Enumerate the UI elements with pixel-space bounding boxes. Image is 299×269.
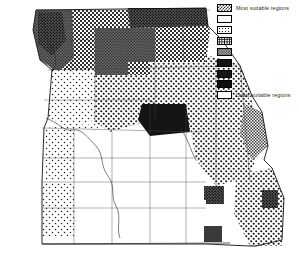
legend-swatch-solid-black-2 xyxy=(217,80,232,88)
legend-swatch-solid-black-1 xyxy=(217,70,232,78)
legend-swatch-dense-stipple xyxy=(217,59,232,67)
legend-item-8[interactable] xyxy=(217,78,232,89)
legend: Most suitable regions Least suitable reg… xyxy=(217,1,299,99)
legend-item-6[interactable] xyxy=(217,57,232,68)
legend-item-1[interactable]: Most suitable regions xyxy=(217,2,289,13)
legend-swatch-sparse-dots xyxy=(217,26,232,34)
legend-swatch-cross-hatch xyxy=(217,37,232,45)
region-lower-blank xyxy=(112,200,206,244)
legend-item-3[interactable] xyxy=(217,24,232,35)
legend-item-4[interactable] xyxy=(217,35,232,46)
legend-label-most-suitable: Most suitable regions xyxy=(236,4,289,12)
legend-swatch-fine-checker xyxy=(217,48,232,56)
figure-root: Most suitable regions Least suitable reg… xyxy=(0,0,299,269)
legend-swatch-least-suitable xyxy=(217,91,232,99)
legend-item-9[interactable]: Least suitable regions xyxy=(217,89,291,100)
legend-swatch-coarse-checker-dark xyxy=(217,4,232,12)
region-west-sparse-dots xyxy=(48,70,95,128)
legend-item-5[interactable] xyxy=(217,46,232,57)
region-bottom-black-square xyxy=(204,226,222,242)
region-bootheel-dark xyxy=(204,186,224,204)
legend-item-2[interactable] xyxy=(217,13,232,24)
region-bootheel-dark-2 xyxy=(262,190,278,208)
legend-label-least-suitable: Least suitable regions xyxy=(236,91,291,99)
region-north-center-dark-band xyxy=(128,8,208,28)
legend-swatch-solid-white xyxy=(217,15,232,23)
